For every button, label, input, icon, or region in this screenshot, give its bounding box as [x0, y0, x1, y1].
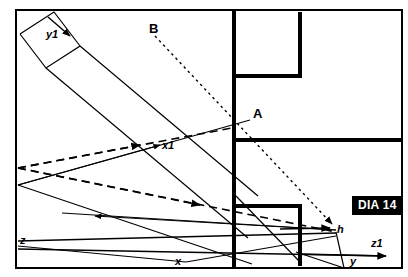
label-y1: y1 [46, 29, 58, 40]
diagram-figure: y1 x1 z1 x y z h A B DIA 14 [0, 0, 408, 277]
diagram-identifier-badge: DIA 14 [352, 196, 403, 215]
label-x: x [175, 256, 181, 267]
label-y: y [350, 256, 356, 267]
h-pointer-arrow [280, 228, 330, 229]
label-x1: x1 [162, 140, 174, 151]
label-h: h [337, 224, 344, 235]
label-z: z [20, 235, 26, 246]
label-z1: z1 [371, 238, 383, 249]
label-point-a: A [253, 107, 262, 120]
label-point-b: B [149, 22, 158, 35]
diagram-canvas [0, 0, 408, 277]
